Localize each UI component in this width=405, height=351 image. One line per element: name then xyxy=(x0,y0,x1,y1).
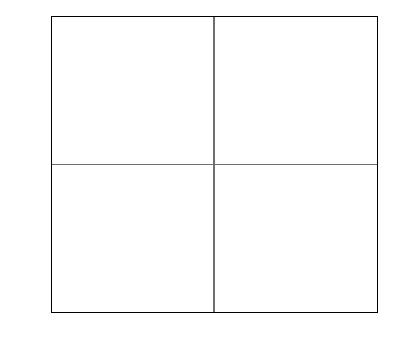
y-axis-line xyxy=(213,17,215,312)
scatter-plot xyxy=(0,0,405,351)
